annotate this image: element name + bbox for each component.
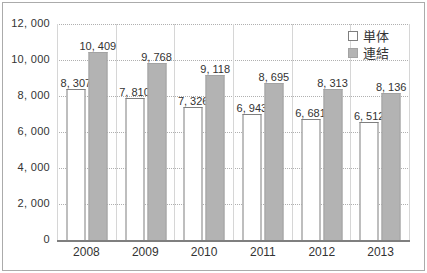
category-2009: 7, 8109, 768: [117, 24, 176, 240]
x-tick-label-2012: 2012: [292, 245, 351, 259]
y-tick-label-2000: 2, 000: [3, 197, 50, 209]
bar-group-2013: 6, 5128, 136: [360, 93, 401, 240]
value-label-series2-2012: 8, 313: [317, 77, 348, 89]
bar-series1-2008: 8, 307: [66, 89, 85, 240]
legend-item-standalone: 単体: [348, 27, 389, 44]
x-axis-labels: 200820092010201120122013: [57, 245, 410, 259]
value-label-series2-2008: 10, 409: [79, 40, 116, 52]
y-tick-label-12000: 12, 000: [3, 17, 50, 29]
bar-group-2009: 7, 8109, 768: [125, 63, 166, 240]
bar-series2-2009: 9, 768: [147, 63, 166, 240]
value-label-series1-2010: 7, 326: [178, 95, 209, 107]
legend-white-square-icon: [348, 31, 358, 41]
value-label-series1-2009: 7, 810: [119, 86, 150, 98]
bar-group-2008: 8, 30710, 409: [66, 52, 107, 240]
category-2012: 6, 6818, 313: [293, 24, 352, 240]
x-tick-label-2010: 2010: [175, 245, 234, 259]
value-label-series2-2009: 9, 768: [141, 51, 172, 63]
value-label-series1-2012: 6, 681: [295, 107, 326, 119]
y-tick-label-6000: 6, 000: [3, 125, 50, 137]
legend: 単体 連結: [348, 27, 389, 61]
category-2011: 6, 9438, 695: [234, 24, 293, 240]
chart-frame: 8, 30710, 4097, 8109, 7687, 3269, 1186, …: [2, 2, 425, 271]
x-tick-label-2011: 2011: [233, 245, 292, 259]
bar-series2-2010: 9, 118: [206, 75, 225, 240]
bar-series2-2012: 8, 313: [323, 89, 342, 240]
bar-series1-2011: 6, 943: [242, 114, 261, 240]
bar-group-2010: 7, 3269, 118: [184, 75, 225, 240]
bar-series1-2010: 7, 326: [184, 107, 203, 240]
bar-group-2011: 6, 9438, 695: [242, 83, 283, 241]
y-tick-label-8000: 8, 000: [3, 89, 50, 101]
y-tick-label-4000: 4, 000: [3, 161, 50, 173]
bar-series1-2009: 7, 810: [125, 98, 144, 240]
x-tick-label-2009: 2009: [116, 245, 175, 259]
bar-group-2012: 6, 6818, 313: [301, 89, 342, 240]
legend-label-consolidated: 連結: [363, 43, 389, 62]
bar-series2-2013: 8, 136: [382, 93, 401, 240]
category-2010: 7, 3269, 118: [175, 24, 234, 240]
value-label-series1-2013: 6, 512: [354, 110, 385, 122]
bar-series2-2011: 8, 695: [264, 83, 283, 241]
y-tick-label-0: 0: [3, 233, 50, 245]
value-label-series2-2011: 8, 695: [259, 71, 290, 83]
value-label-series2-2010: 9, 118: [200, 63, 230, 75]
category-2008: 8, 30710, 409: [58, 24, 117, 240]
x-tick-label-2013: 2013: [351, 245, 410, 259]
legend-item-consolidated: 連結: [348, 44, 389, 61]
legend-gray-square-icon: [348, 48, 358, 58]
y-tick-label-10000: 10, 000: [3, 53, 50, 65]
value-label-series2-2013: 8, 136: [376, 81, 407, 93]
bar-series1-2013: 6, 512: [360, 122, 379, 240]
bar-series2-2008: 10, 409: [88, 52, 107, 240]
value-label-series1-2008: 8, 307: [61, 77, 92, 89]
x-tick-label-2008: 2008: [57, 245, 116, 259]
value-label-series1-2011: 6, 943: [237, 102, 268, 114]
bar-series1-2012: 6, 681: [301, 119, 320, 240]
